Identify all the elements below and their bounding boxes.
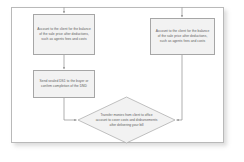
connector-account-right-to-transfer — [177, 55, 183, 120]
node-account-to-client-left[interactable]: Account to the client for the balance of… — [33, 14, 95, 55]
node-account-to-client-right-label: Account to the client for the balance of… — [151, 29, 214, 43]
node-transfer-monies-label: Transfer monies from client to office ac… — [96, 113, 158, 127]
node-transfer-monies[interactable]: Transfer monies from client to office ac… — [78, 97, 175, 143]
flowchart-canvas: Account to the client for the balance of… — [0, 0, 244, 162]
node-account-to-client-left-label: Account to the client for the balance of… — [34, 27, 94, 41]
node-send-sealed-ds1[interactable]: Send sealed DS1 to the buyer or confirm … — [33, 70, 95, 98]
node-account-to-client-right[interactable]: Account to the client for the balance of… — [150, 18, 215, 55]
node-send-sealed-ds1-label: Send sealed DS1 to the buyer or confirm … — [34, 79, 94, 89]
connector-send-ds1-to-transfer — [64, 98, 77, 120]
